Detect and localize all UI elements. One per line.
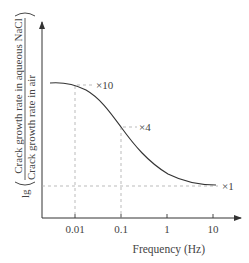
right-paren: [15, 13, 35, 16]
left-paren: [15, 182, 35, 185]
x-axis-label: Frequency (Hz): [133, 243, 206, 256]
x-tick-label: 0.1: [114, 223, 128, 235]
crack-growth-chart: lg Crack growth rate in aqueous NaCl Cra…: [0, 0, 249, 263]
annotation-x1: ×1: [222, 180, 234, 192]
y-label-prefix: lg: [19, 189, 31, 198]
x-ticks: [75, 214, 213, 218]
reference-lines: [42, 85, 218, 218]
y-label-denominator: Crack growth rate in air: [25, 75, 37, 180]
x-tick-label: 1: [164, 223, 170, 235]
annotation-x10: ×10: [96, 79, 114, 91]
y-axis-label: lg Crack growth rate in aqueous NaCl Cra…: [12, 13, 37, 198]
x-tick-label: 10: [208, 223, 220, 235]
annotation-x4: ×4: [139, 121, 151, 133]
y-label-numerator: Crack growth rate in aqueous NaCl: [12, 18, 24, 173]
x-tick-label: 0.01: [65, 223, 84, 235]
